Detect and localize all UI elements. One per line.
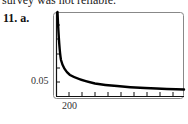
- data-curve: [58, 12, 185, 90]
- x-ticks: [69, 92, 173, 96]
- line-chart: [0, 0, 188, 124]
- y-tick-label: 0.05: [31, 75, 49, 86]
- x-tick-label: 200: [62, 100, 77, 111]
